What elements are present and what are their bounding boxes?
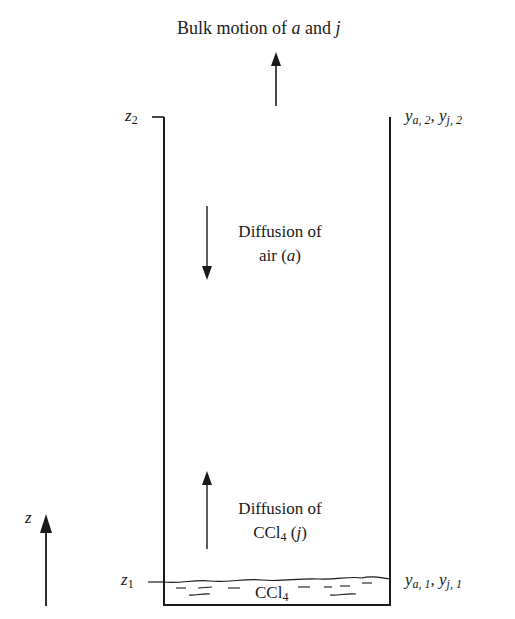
z-axis-arrow-icon bbox=[40, 514, 52, 606]
bulk-motion-arrow-icon bbox=[271, 52, 281, 106]
diffusion-air-arrow-icon bbox=[202, 206, 212, 280]
z-axis-label: z bbox=[25, 509, 32, 526]
height-z2-label: z2 bbox=[125, 107, 138, 124]
liquid-surface-line bbox=[148, 577, 390, 583]
diffusion-ccl4-label: Diffusion of CCl4 (j) bbox=[222, 497, 338, 545]
bulk-motion-label: Bulk motion of a and j bbox=[177, 19, 341, 37]
diffusion-ccl4-arrow-icon bbox=[202, 471, 212, 549]
bottom-composition-label: ya, 1, yj, 1 bbox=[405, 571, 462, 588]
diffusion-air-label: Diffusion of air (a) bbox=[222, 220, 338, 268]
liquid-ccl4-label: CCl4 bbox=[255, 584, 288, 601]
height-z1-label: z1 bbox=[121, 571, 134, 588]
top-composition-label: ya, 2, yj, 2 bbox=[405, 107, 462, 124]
